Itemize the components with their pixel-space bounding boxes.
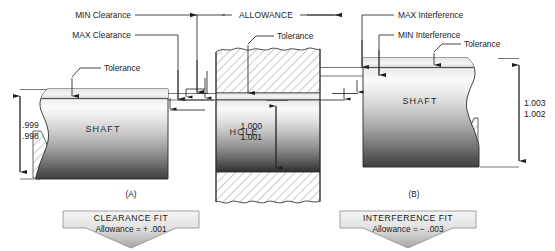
max-interference-label: MAX Interference	[398, 10, 464, 20]
shaft-right-tolerance-band	[363, 58, 474, 68]
fit-diagram-canvas: SHAFT .999 .998 Tolerance HOLE 1.000	[0, 0, 555, 251]
shaft-left-tolerance-band	[41, 89, 168, 99]
min-clearance-label: MIN Clearance	[75, 10, 131, 20]
tolerance-hole-label: Tolerance	[277, 31, 314, 41]
banner-interference-subtitle: Allowance = − .003	[372, 224, 444, 234]
banner-clearance-title: CLEARANCE FIT	[94, 213, 169, 223]
hole-dim-upper: 1.000	[240, 121, 262, 131]
tolerance-left-label: Tolerance	[104, 63, 141, 73]
shaft-left-body	[36, 89, 168, 179]
shaft-left-label: SHAFT	[85, 124, 120, 134]
shaft-right-dim-upper: 1.003	[524, 98, 546, 108]
shaft-right-label: SHAFT	[402, 96, 437, 106]
hole-upper-tolerance-band	[216, 93, 320, 100]
fit-diagram-container: SHAFT .999 .998 Tolerance HOLE 1.000	[0, 0, 555, 251]
shaft-right-body	[363, 58, 479, 167]
shaft-left-dim-lower: .998	[22, 131, 39, 141]
banner-interference-title: INTERFERENCE FIT	[363, 213, 453, 223]
min-interference-label: MIN Interference	[398, 30, 461, 40]
figure-label-right: (B)	[409, 190, 420, 199]
hole-dim-lower: 1.001	[240, 132, 262, 142]
allowance-label: ALLOWANCE	[239, 10, 293, 20]
shaft-right-group: SHAFT	[363, 58, 479, 167]
banner-clearance-subtitle: Allowance = + .001	[95, 224, 167, 234]
shaft-left-dim-upper: .999	[22, 120, 39, 130]
max-clearance-label: MAX Clearance	[72, 30, 131, 40]
figure-label-left: (A)	[126, 190, 137, 199]
tolerance-right-label: Tolerance	[464, 39, 501, 49]
shaft-left-group: SHAFT	[33, 89, 168, 179]
shaft-right-dim-lower: 1.002	[524, 109, 546, 119]
hole-group: HOLE	[216, 48, 320, 203]
hole-upper-wall	[216, 48, 320, 93]
hole-lower-wall	[216, 172, 320, 203]
